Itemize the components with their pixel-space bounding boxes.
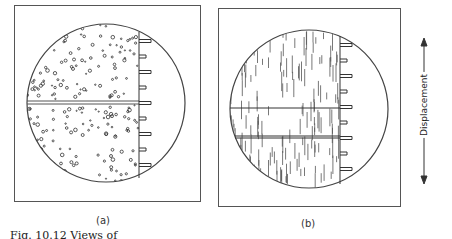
panel-a-label: (a) (96, 215, 110, 226)
field-of-view-a (26, 23, 186, 183)
displacement-axis-label: Displacement (419, 72, 429, 138)
figure-caption: Fig. 10.12 Views of (10, 229, 117, 239)
panel-b-label: (b) (301, 218, 315, 229)
figure-drawing (0, 0, 452, 239)
field-of-view-b (230, 29, 388, 188)
